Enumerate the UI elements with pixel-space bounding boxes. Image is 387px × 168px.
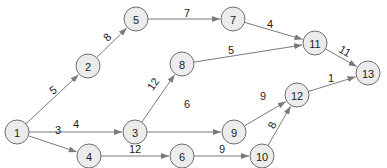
node-10: 10 [250, 144, 274, 168]
node-13: 13 [356, 61, 380, 85]
nodes-layer: 12345678910111213 [5, 7, 380, 168]
node-9: 9 [222, 120, 246, 144]
arrow-icon [194, 45, 302, 62]
node-label: 7 [230, 14, 236, 26]
edge-weight-label: 6 [184, 98, 190, 110]
node-label: 5 [133, 14, 139, 26]
node-label: 3 [132, 127, 138, 139]
edge-1-to-2 [26, 75, 79, 124]
node-6: 6 [170, 144, 194, 168]
node-label: 4 [86, 151, 92, 163]
edge-weight-label: 7 [184, 7, 190, 19]
edge-1-to-4 [28, 136, 76, 152]
node-1: 1 [5, 120, 29, 144]
node-label: 9 [231, 127, 237, 139]
edge-weight-label: 9 [219, 143, 225, 155]
node-4: 4 [77, 144, 101, 168]
network-diagram: 543874512611911298 12345678910111213 [0, 0, 387, 168]
edge-weight-label: 12 [129, 143, 141, 155]
edge-weight-label: 1 [328, 72, 334, 84]
edge-weight-label: 12 [145, 76, 162, 93]
node-label: 6 [179, 151, 185, 163]
arrow-icon [26, 75, 79, 124]
edge-weight-label: 9 [260, 90, 266, 102]
node-5: 5 [124, 7, 148, 31]
arrow-icon [245, 22, 303, 39]
arrow-icon [97, 28, 127, 58]
edge-weight-label: 4 [73, 118, 79, 130]
node-label: 8 [179, 59, 185, 71]
node-7: 7 [221, 7, 245, 31]
edge-weight-label: 8 [265, 120, 278, 131]
node-label: 12 [291, 90, 303, 102]
edge-weight-label: 3 [55, 124, 61, 136]
node-label: 11 [309, 38, 320, 50]
edge-8-to-11 [194, 45, 302, 62]
node-label: 13 [362, 68, 374, 80]
edge-weight-label: 5 [228, 44, 234, 56]
node-3: 3 [123, 120, 147, 144]
node-12: 12 [285, 83, 309, 107]
node-2: 2 [76, 54, 100, 78]
edge-2-to-5 [97, 28, 127, 58]
node-8: 8 [170, 52, 194, 76]
diagram-svg: 543874512611911298 12345678910111213 [0, 0, 387, 168]
node-label: 1 [14, 127, 20, 139]
node-label: 2 [85, 61, 91, 73]
edge-7-to-11 [245, 22, 303, 39]
arrow-icon [28, 136, 76, 152]
edge-labels-layer: 543874512611911298 [47, 7, 353, 155]
arrow-icon [244, 102, 285, 126]
edge-9-to-12 [244, 102, 285, 126]
edge-weight-label: 8 [101, 31, 114, 44]
node-label: 10 [256, 151, 268, 163]
node-11: 11 [303, 31, 327, 55]
edge-weight-label: 4 [267, 18, 273, 30]
